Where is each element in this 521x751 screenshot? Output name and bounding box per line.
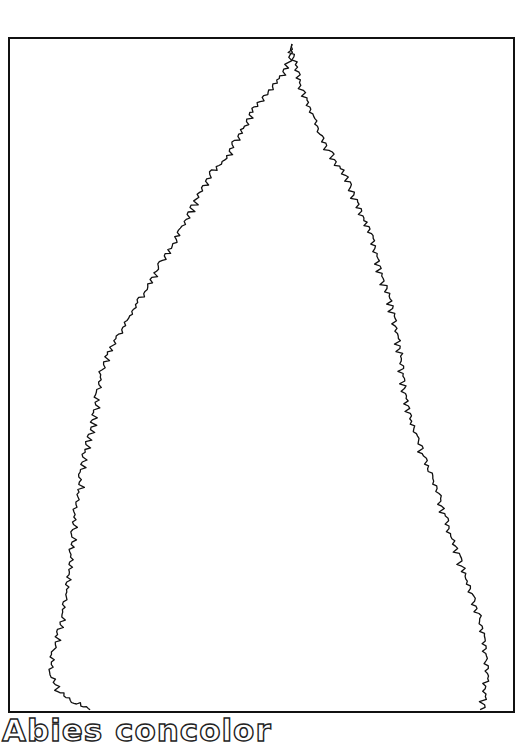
conifer-silhouette: [0, 0, 521, 751]
right-outline: [288, 44, 489, 710]
species-caption: Abies concolor: [2, 711, 272, 749]
left-outline: [49, 44, 292, 710]
illustration: Abies concolor: [0, 0, 521, 751]
